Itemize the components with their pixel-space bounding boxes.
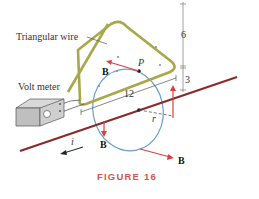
label-radius: r — [152, 113, 156, 124]
current-arrow — [60, 147, 83, 155]
radius-line — [139, 110, 173, 116]
label-triangular-wire: Triangular wire — [16, 31, 79, 42]
b-arrow-bottom-right — [140, 149, 174, 160]
lead-wire-1 — [62, 100, 80, 104]
volt-meter — [16, 99, 64, 126]
label-point-p: P — [137, 57, 144, 68]
label-current: i — [71, 136, 74, 147]
label-b-bottom: B — [178, 155, 185, 166]
label-dim-6: 6 — [181, 29, 186, 40]
label-volt-meter: Volt meter — [18, 81, 60, 92]
figure-caption: FIGURE 16 — [97, 171, 157, 182]
label-dim-3: 3 — [185, 74, 190, 85]
label-b-left: B — [100, 139, 107, 150]
label-b-top: B — [102, 66, 109, 77]
label-dim-12: 12 — [124, 88, 134, 99]
figure-diagram: Triangular wire Volt meter P B B B 6 3 1… — [0, 0, 259, 199]
b-arrow-right-up — [170, 85, 176, 118]
